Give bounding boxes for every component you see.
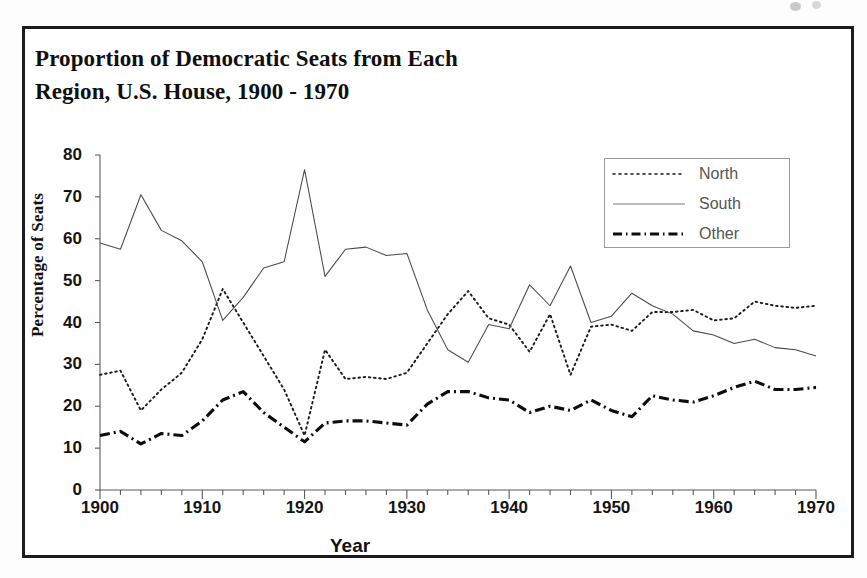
legend-label-north: North xyxy=(693,165,738,183)
y-tick-label-text: 40 xyxy=(46,313,82,333)
x-tick-label: 1950 xyxy=(576,498,646,518)
y-tick-label: 0 xyxy=(46,480,82,500)
x-axis-label: Year xyxy=(330,535,370,557)
y-tick-label: 40 xyxy=(46,313,82,333)
x-tick-label: 1970 xyxy=(781,498,851,518)
y-tick-label: 50 xyxy=(46,271,82,291)
x-tick-label: 1910 xyxy=(167,498,237,518)
y-tick-label: 70 xyxy=(46,187,82,207)
y-tick-label-text: 20 xyxy=(46,396,82,416)
series-line-other xyxy=(100,381,816,444)
legend-swatch-north xyxy=(605,167,693,181)
y-axis-label: Percentage of Seats xyxy=(28,165,48,365)
y-tick-label: 60 xyxy=(46,229,82,249)
y-tick-label-text: 30 xyxy=(46,354,82,374)
legend-label-other: Other xyxy=(693,225,739,243)
y-tick-label-text: 0 xyxy=(46,480,82,500)
legend-swatch-south xyxy=(605,197,693,211)
y-tick-label-text: 50 xyxy=(46,271,82,291)
x-tick-label: 1930 xyxy=(372,498,442,518)
y-tick-label-text: 10 xyxy=(46,438,82,458)
y-tick-label-text: 60 xyxy=(46,229,82,249)
y-tick-label-text: 80 xyxy=(46,145,82,165)
y-tick-label: 80 xyxy=(46,145,82,165)
y-tick-label: 10 xyxy=(46,438,82,458)
chart-figure: Proportion of Democratic Seats from Each… xyxy=(0,0,867,578)
y-tick-label: 30 xyxy=(46,354,82,374)
legend-entry-other: Other xyxy=(605,219,789,249)
chart-legend: North South Other xyxy=(604,158,790,248)
x-tick-label: 1900 xyxy=(65,498,135,518)
x-tick-label: 1920 xyxy=(270,498,340,518)
legend-label-south: South xyxy=(693,195,741,213)
x-tick-label: 1960 xyxy=(679,498,749,518)
plot-area: Percentage of Seats Year 010203040506070… xyxy=(0,0,867,578)
legend-entry-north: North xyxy=(605,159,789,189)
legend-entry-south: South xyxy=(605,189,789,219)
legend-swatch-other xyxy=(605,227,693,241)
y-tick-label-text: 70 xyxy=(46,187,82,207)
chart-svg xyxy=(0,0,867,578)
x-tick-label: 1940 xyxy=(474,498,544,518)
y-tick-label: 20 xyxy=(46,396,82,416)
